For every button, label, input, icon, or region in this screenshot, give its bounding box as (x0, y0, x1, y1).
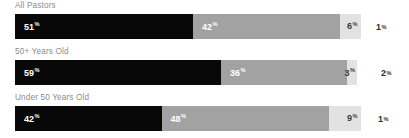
percent-sign: % (353, 22, 358, 31)
segment-value: 42% (193, 22, 218, 32)
bar-segment-1: 42% (15, 106, 162, 131)
bar-segment-1: 59% (15, 60, 221, 85)
bar-segment-3: 3% (347, 60, 357, 85)
bar-segment-4-outside-value: 1% (376, 14, 387, 39)
bar-segment-3: 6% (340, 14, 361, 39)
percent-sign: % (181, 113, 186, 119)
percent-sign: % (387, 70, 392, 76)
percent-sign: % (213, 21, 218, 27)
percent-sign: % (382, 24, 387, 30)
bar-segment-2: 48% (162, 106, 330, 131)
segment-value: 59% (15, 68, 40, 78)
bar-all-pastors: 51% 42% 6% (15, 14, 364, 39)
percent-sign: % (35, 67, 40, 73)
bar-segment-2: 42% (193, 14, 340, 39)
percent-sign: % (353, 114, 358, 123)
percent-sign: % (350, 67, 355, 73)
row-label-50-plus-years-old: 50+ Years Old (15, 47, 69, 57)
segment-value: 9% (329, 114, 360, 123)
percent-sign: % (384, 116, 389, 122)
segment-value: 42% (15, 114, 40, 124)
segment-value: 3% (345, 68, 356, 78)
percent-sign: % (35, 113, 40, 119)
segment-value: 36% (221, 68, 246, 78)
bar-50-plus-years-old: 59% 36% 3% (15, 60, 364, 85)
percent-sign: % (240, 67, 245, 73)
row-label-under-50-years-old: Under 50 Years Old (15, 93, 89, 103)
percent-sign: % (35, 21, 40, 27)
segment-value: 51% (15, 22, 40, 32)
stacked-bar-chart: All Pastors 51% 42% 6% 1% 50+ Years Old … (0, 0, 409, 138)
row-label-all-pastors: All Pastors (15, 1, 56, 11)
segment-value: 48% (162, 114, 187, 124)
bar-segment-1: 51% (15, 14, 193, 39)
bar-segment-4-outside-value: 1% (378, 106, 389, 131)
bar-segment-3: 9% (329, 106, 360, 131)
bar-segment-2: 36% (221, 60, 347, 85)
segment-value: 6% (340, 22, 361, 31)
bar-under-50-years-old: 42% 48% 9% (15, 106, 364, 131)
bar-segment-4-outside-value: 2% (381, 60, 392, 85)
